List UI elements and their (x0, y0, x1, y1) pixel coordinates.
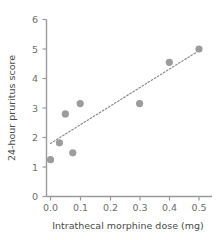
x-tick-label-4: 0.4 (162, 202, 177, 213)
data-point (136, 100, 143, 107)
y-axis-tick-labels: 6 5 4 3 2 1 0 (32, 14, 38, 202)
y-tick-label-4: 4 (32, 73, 38, 84)
x-tick-label-3: 0.3 (132, 202, 147, 213)
data-point (77, 100, 84, 107)
data-point (62, 110, 69, 117)
x-tick-label-1: 0.1 (73, 202, 88, 213)
data-point (166, 59, 173, 66)
x-tick-label-2: 0.2 (103, 202, 118, 213)
y-tick-label-1: 1 (32, 162, 38, 173)
data-point (56, 139, 63, 146)
y-tick-label-0: 0 (32, 191, 38, 202)
x-tick-label-0: 0.0 (43, 202, 58, 213)
y-tick-label-2: 2 (32, 132, 38, 143)
data-point (69, 149, 76, 156)
x-tick-label-5: 0.5 (191, 202, 206, 213)
y-tick-label-6: 6 (32, 14, 38, 25)
trend-line (51, 48, 203, 143)
data-point (195, 45, 202, 52)
y-tick-label-3: 3 (32, 103, 38, 114)
x-axis-tick-labels: 0.0 0.1 0.2 0.3 0.4 0.5 (43, 202, 207, 213)
data-point (47, 156, 54, 163)
chart-canvas: 6 5 4 3 2 1 0 0.0 0.1 0.2 0.3 0.4 0.5 (0, 0, 220, 240)
scatter-plot-figure: 6 5 4 3 2 1 0 0.0 0.1 0.2 0.3 0.4 0.5 (0, 0, 220, 240)
y-axis-title: 24-hour pruritus score (6, 55, 17, 161)
y-tick-label-5: 5 (32, 44, 38, 55)
x-axis-title: Intrathecal morphine dose (mg) (52, 220, 203, 231)
